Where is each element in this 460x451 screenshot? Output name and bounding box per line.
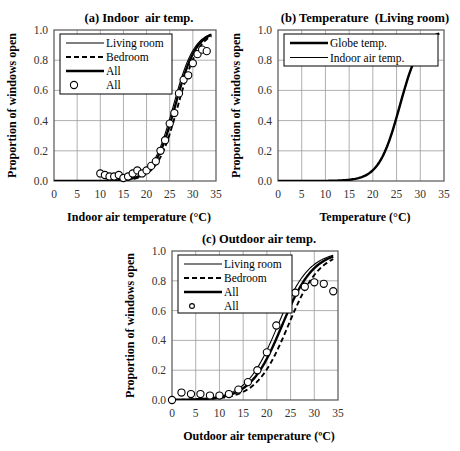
legend: Living roomBedroomAllAll	[178, 255, 292, 313]
x-tick-label: 10	[95, 188, 107, 200]
data-point	[225, 390, 232, 397]
data-point	[178, 389, 185, 396]
chart-title: (c) Outdoor air temp.	[202, 232, 316, 246]
x-tick-label: 5	[299, 188, 305, 200]
legend-label: Living room	[106, 37, 164, 50]
y-tick-label: 0.2	[258, 145, 273, 157]
y-tick-label: 0.8	[34, 54, 49, 66]
data-point	[273, 322, 280, 329]
legend-label: All	[224, 300, 239, 312]
x-tick-label: 15	[343, 188, 355, 200]
legend-label: Indoor air temp.	[330, 52, 405, 65]
x-tick-label: 30	[187, 188, 199, 200]
data-point	[203, 48, 210, 55]
y-tick-label: 0.4	[152, 334, 167, 346]
data-point	[171, 109, 178, 116]
x-tick-label: 35	[210, 188, 222, 200]
data-point	[216, 392, 223, 399]
chart-panel-c: 051015202530350.00.20.40.60.81.0(c) Outd…	[123, 232, 344, 443]
y-tick-label: 0.8	[258, 54, 273, 66]
data-point	[166, 120, 173, 127]
x-axis-label: Temperature (°C)	[319, 210, 410, 224]
y-tick-label: 0.0	[258, 175, 273, 187]
y-tick-label: 0.6	[152, 305, 167, 317]
x-tick-label: 15	[118, 188, 130, 200]
x-tick-label: 25	[391, 188, 403, 200]
x-tick-label: 10	[214, 407, 226, 419]
x-tick-label: 30	[415, 188, 427, 200]
legend-swatch	[190, 304, 195, 309]
data-point	[292, 289, 299, 296]
data-point	[244, 379, 251, 386]
x-tick-label: 30	[309, 407, 321, 419]
legend-label: Living room	[224, 258, 282, 271]
legend-label: All	[106, 79, 121, 91]
y-tick-label: 0.6	[258, 84, 273, 96]
y-tick-label: 0.4	[34, 115, 49, 127]
x-tick-label: 25	[285, 407, 297, 419]
chart-title: (a) Indoor air temp.	[85, 11, 194, 25]
data-point	[330, 288, 337, 295]
data-point	[206, 392, 213, 399]
legend-label: Bedroom	[106, 51, 149, 63]
x-axis-label: Indoor air temperature (°C)	[67, 210, 211, 224]
data-point	[254, 367, 261, 374]
data-point	[157, 147, 164, 154]
x-tick-label: 20	[141, 188, 153, 200]
legend-label: Globe temp.	[330, 37, 387, 50]
data-point	[320, 280, 327, 287]
y-tick-label: 0.0	[152, 394, 167, 406]
data-point	[161, 137, 168, 144]
data-point	[311, 279, 318, 286]
x-tick-label: 0	[51, 188, 57, 200]
data-point	[185, 72, 192, 79]
x-tick-label: 5	[193, 407, 199, 419]
data-point	[235, 386, 242, 393]
y-tick-label: 1.0	[152, 245, 167, 257]
x-tick-label: 25	[164, 188, 176, 200]
x-tick-label: 15	[237, 407, 249, 419]
data-point	[168, 396, 175, 403]
y-tick-label: 0.2	[34, 145, 49, 157]
x-tick-label: 0	[169, 407, 175, 419]
legend: Living roomBedroomAllAll	[60, 34, 172, 94]
data-point	[189, 60, 196, 67]
legend-label: All	[106, 65, 121, 77]
x-tick-label: 20	[261, 407, 273, 419]
y-tick-label: 1.0	[34, 24, 49, 36]
data-point	[175, 90, 182, 97]
y-tick-label: 0.2	[152, 364, 167, 376]
y-tick-label: 0.0	[34, 175, 49, 187]
data-point	[197, 390, 204, 397]
y-tick-label: 0.6	[34, 84, 49, 96]
y-tick-label: 1.0	[258, 24, 273, 36]
data-point	[301, 283, 308, 290]
x-axis-label: Outdoor air temperature (ºC)	[183, 429, 335, 443]
x-tick-label: 35	[438, 188, 450, 200]
chart-panel-a: 051015202530350.00.20.40.60.81.0(a) Indo…	[5, 11, 222, 224]
figure-canvas: 051015202530350.00.20.40.60.81.0(a) Indo…	[0, 0, 460, 451]
legend-label: All	[224, 286, 239, 298]
chart-title: (b) Temperature (Living room)	[281, 11, 449, 25]
data-point	[263, 349, 270, 356]
legend: Globe temp.Indoor air temp.	[284, 34, 438, 66]
y-tick-label: 0.8	[152, 275, 167, 287]
x-tick-label: 20	[367, 188, 379, 200]
y-axis-label: Proportion of windows open	[123, 253, 137, 398]
legend-label: Bedroom	[224, 272, 267, 284]
x-tick-label: 10	[320, 188, 332, 200]
data-point	[187, 390, 194, 397]
y-axis-label: Proportion of windows open	[229, 33, 243, 178]
data-point	[152, 158, 159, 165]
x-tick-label: 5	[74, 188, 80, 200]
x-tick-label: 35	[332, 407, 344, 419]
chart-panel-b: 051015202530350.00.20.40.60.81.0(b) Temp…	[229, 11, 450, 224]
x-tick-label: 0	[275, 188, 281, 200]
y-axis-label: Proportion of windows open	[5, 33, 19, 178]
y-tick-label: 0.4	[258, 115, 273, 127]
legend-swatch	[70, 81, 77, 88]
